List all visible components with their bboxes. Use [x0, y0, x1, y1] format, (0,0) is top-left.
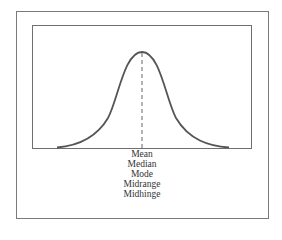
- label-median: Median: [102, 159, 182, 169]
- bell-curve: [57, 52, 229, 148]
- label-mean: Mean: [102, 149, 182, 159]
- label-mode: Mode: [102, 169, 182, 179]
- label-midrange: Midrange: [102, 179, 182, 189]
- central-tendency-labels: Mean Median Mode Midrange Midhinge: [102, 149, 182, 199]
- label-midhinge: Midhinge: [102, 189, 182, 199]
